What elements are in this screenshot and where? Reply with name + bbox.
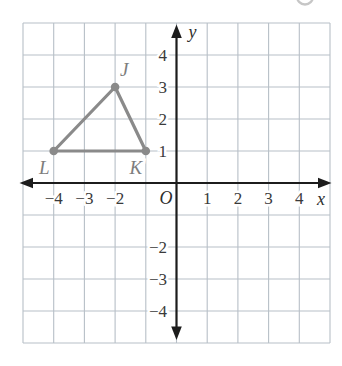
y-tick-label: −3	[149, 270, 167, 289]
y-tick-label: 2	[159, 110, 168, 129]
vertex-dot-l	[49, 147, 58, 156]
y-axis-label: y	[187, 22, 197, 42]
y-axis-arrow-up	[171, 25, 182, 39]
vertex-dot-j	[111, 83, 120, 92]
y-tick-label: −2	[149, 238, 167, 257]
y-tick-label: 1	[159, 142, 168, 161]
x-tick-label: 3	[264, 189, 273, 208]
x-axis-label: x	[316, 189, 325, 209]
x-tick-label: 2	[234, 189, 243, 208]
x-tick-label: 4	[295, 189, 304, 208]
origin-label: O	[160, 188, 173, 208]
vertex-dot-k	[142, 147, 151, 156]
y-tick-label: −4	[149, 302, 168, 321]
x-tick-label: −3	[75, 189, 93, 208]
vertex-label-l: L	[38, 157, 50, 178]
coordinate-plane: −4−3−212344321−2−3−4OxyJKL	[0, 0, 342, 366]
x-axis-arrow-left	[20, 178, 34, 189]
tick-labels: −4−3−212344321−2−3−4Oxy	[45, 22, 325, 322]
x-tick-label: −2	[106, 189, 124, 208]
x-tick-label: 1	[203, 189, 212, 208]
y-tick-label: 4	[159, 46, 168, 65]
stray-crop-mark	[297, 0, 313, 5]
y-tick-label: 3	[159, 78, 168, 97]
triangle-jkl: JKL	[38, 59, 150, 179]
vertex-label-j: J	[120, 59, 130, 80]
vertex-label-k: K	[128, 157, 143, 178]
graph-figure: −4−3−212344321−2−3−4OxyJKL	[0, 0, 342, 366]
axes	[20, 25, 332, 341]
y-axis-arrow-down	[171, 327, 182, 341]
x-tick-label: −4	[45, 189, 64, 208]
